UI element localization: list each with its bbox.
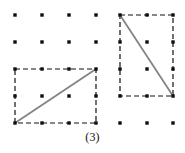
grid-dot: [145, 94, 148, 97]
grid-dot: [118, 67, 121, 70]
grid-dot: [94, 121, 97, 124]
grid-dot: [67, 121, 70, 124]
right-diagonal: [120, 15, 173, 96]
grid-dot: [67, 94, 70, 97]
grid-dot: [118, 121, 121, 124]
grid-dot: [118, 13, 121, 16]
grid-dot: [67, 67, 70, 70]
grid-dot: [13, 121, 16, 124]
diagonals-layer: [15, 15, 173, 123]
grid-dot: [40, 40, 43, 43]
grid-dot: [94, 67, 97, 70]
grid-dot: [67, 40, 70, 43]
grid-dot: [145, 67, 148, 70]
grid-dot: [40, 94, 43, 97]
grid-dot: [40, 13, 43, 16]
grid-dot: [118, 40, 121, 43]
grid-dot: [13, 67, 16, 70]
grid-dot: [171, 94, 174, 97]
grid-dot: [40, 121, 43, 124]
grid-dot: [94, 40, 97, 43]
grid-dot: [13, 13, 16, 16]
grid-dot: [94, 13, 97, 16]
grid-dot: [145, 13, 148, 16]
grid-dot: [171, 121, 174, 124]
grid-dot: [171, 67, 174, 70]
grid-dot: [40, 67, 43, 70]
grid-dot: [145, 121, 148, 124]
grid-dot: [171, 40, 174, 43]
figure-caption: (3): [0, 130, 185, 145]
left-diagonal: [15, 69, 96, 123]
grid-dot: [94, 94, 97, 97]
grid-dot: [145, 40, 148, 43]
grid-dot: [171, 13, 174, 16]
grid-dot: [13, 94, 16, 97]
grid-dot: [13, 40, 16, 43]
grid-dot: [67, 13, 70, 16]
grid-dot: [118, 94, 121, 97]
figure-container: (3): [0, 0, 185, 153]
